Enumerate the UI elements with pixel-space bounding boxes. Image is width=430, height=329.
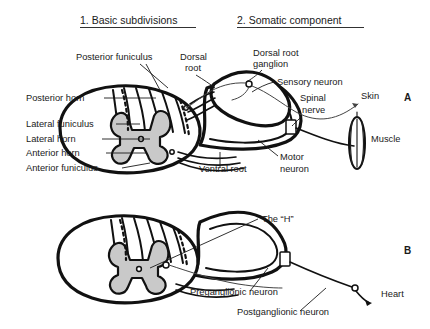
heading-basic-subdivisions: 1. Basic subdivisions (80, 14, 177, 26)
figure-headings: 1. Basic subdivisions 2. Somatic compone… (80, 14, 364, 28)
figure-canvas: 1. Basic subdivisions 2. Somatic compone… (0, 0, 430, 329)
spinal-cord-diagram: 1. Basic subdivisions 2. Somatic compone… (0, 0, 430, 329)
label-sensory-neuron: Sensory neuron (277, 77, 343, 87)
peripheral-ganglion (352, 285, 358, 291)
label-lateral-horn: Lateral horn (26, 134, 76, 144)
heart-arrowhead (365, 300, 372, 306)
panel-marker-b: B (404, 245, 411, 256)
preganglionic-neuron-cell-body (163, 262, 169, 268)
label-posterior-funiculus: Posterior funiculus (76, 52, 153, 62)
autonomic-nerve-marker-box (280, 252, 290, 266)
label-ventral-root: Ventral root (199, 164, 247, 174)
panel-marker-a: A (404, 92, 411, 103)
muscle-spindle (349, 112, 365, 169)
label-spinal-nerve-line1: Spinal (300, 93, 326, 103)
label-motor-neuron-line2: neuron (280, 164, 309, 174)
motor-axon-to-muscle (296, 128, 354, 146)
label-the-h: The “H” (262, 214, 294, 224)
label-preganglionic-neuron: Preganglionic neuron (190, 287, 278, 297)
label-postganglionic-neuron: Postganglionic neuron (237, 307, 329, 317)
label-dorsal-root-ganglion-line1: Dorsal root (253, 48, 299, 58)
postganglionic-axon (290, 262, 352, 287)
label-dorsal-root-ganglion-line2: ganglion (253, 59, 288, 69)
label-anterior-horn: Anterior horn (26, 148, 80, 158)
spinal-nerve-marker-box (286, 120, 296, 134)
label-spinal-nerve-line2: nerve (302, 105, 325, 115)
label-dorsal-root-line1: Dorsal (180, 52, 207, 62)
label-posterior-horn: Posterior horn (26, 93, 84, 103)
label-dorsal-root-line2: root (185, 63, 201, 73)
heading-somatic-component: 2. Somatic component (237, 14, 342, 26)
label-lateral-funiculus: Lateral funiculus (26, 119, 94, 129)
label-heart: Heart (381, 289, 404, 299)
ventral-root-exit-marker (170, 150, 174, 154)
label-motor-neuron-line1: Motor (280, 152, 304, 162)
central-canal-b (137, 267, 142, 272)
axon-to-heart (356, 291, 368, 302)
label-muscle: Muscle (371, 134, 400, 144)
label-skin: Skin (361, 91, 379, 101)
label-anterior-funiculus: Anterior funiculus (26, 163, 98, 173)
